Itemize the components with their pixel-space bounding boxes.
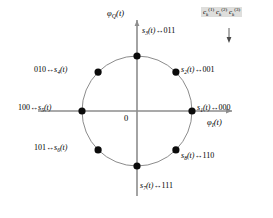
point-label-s7: s7(t)↔111 — [140, 182, 173, 190]
legend-c3-sup: (3) — [234, 7, 240, 12]
legend-c1-sup: (1) — [208, 7, 214, 12]
point-s3[interactable] — [133, 52, 140, 59]
axis-vertical — [135, 20, 140, 196]
s6-arrow-icon: ↔ — [46, 143, 54, 152]
point-s8[interactable] — [172, 146, 179, 153]
phi-i-symbol: φ — [207, 117, 212, 127]
s8-bits: 110 — [202, 151, 214, 160]
constellation-figure: φQ(t) φI(t) 0 ck(1) ck(2) ck(3) s1(t)↔00… — [0, 0, 273, 218]
legend-pointer-arrow-icon — [227, 28, 232, 43]
legend-c2-sup: (2) — [221, 7, 227, 12]
point-s7[interactable] — [133, 162, 140, 169]
s5-arrow-icon: ↔ — [30, 103, 38, 112]
s4-tail: (t) — [60, 65, 68, 74]
s3-bits: 011 — [163, 26, 175, 35]
origin-label: 0 — [124, 113, 128, 123]
s7-bits: 111 — [161, 181, 172, 190]
legend-c1-sub: k — [206, 12, 208, 17]
bit-order-legend: ck(1) ck(2) ck(3) — [201, 7, 242, 17]
s1-bits: 000 — [218, 103, 230, 112]
point-label-s4: 010↔s4(t) — [34, 66, 67, 74]
s5-sub: 5 — [41, 107, 44, 113]
legend-c3-sub: k — [232, 12, 234, 17]
point-s5[interactable] — [78, 107, 85, 114]
phi-q-symbol: φ — [107, 8, 112, 18]
point-s1[interactable] — [188, 107, 195, 114]
s7-sub: 7 — [143, 185, 146, 191]
point-label-s2: s2(t)↔001 — [181, 66, 214, 74]
point-s2[interactable] — [172, 69, 179, 76]
phi-q-tail: (t) — [116, 8, 124, 18]
point-label-s1: s1(t)↔000 — [197, 104, 230, 112]
point-label-s8: s8(t)↔110 — [181, 152, 214, 160]
s2-sub: 2 — [184, 69, 187, 75]
s4-bits: 010 — [34, 65, 46, 74]
s6-tail: (t) — [60, 143, 68, 152]
legend-c2-sub: k — [219, 12, 221, 17]
point-label-s5: 100↔s5(t) — [18, 104, 51, 112]
axis-label-phi-i: φI(t) — [207, 118, 222, 127]
phi-i-tail: (t) — [214, 117, 222, 127]
s8-sub: 8 — [184, 155, 187, 161]
s5-bits: 100 — [18, 103, 30, 112]
point-label-s6: 101↔s6(t) — [34, 144, 67, 152]
s4-sub: 4 — [57, 69, 60, 75]
s6-bits: 101 — [34, 143, 46, 152]
point-s4[interactable] — [95, 69, 102, 76]
s1-sub: 1 — [200, 107, 203, 113]
s5-tail: (t) — [44, 103, 52, 112]
s6-sub: 6 — [57, 147, 60, 153]
point-s6[interactable] — [95, 146, 102, 153]
s3-sub: 3 — [145, 30, 148, 36]
phi-q-subscript: Q — [112, 13, 116, 19]
axis-label-phi-q: φQ(t) — [107, 9, 124, 18]
point-label-s3: s3(t)↔011 — [142, 27, 175, 35]
phi-i-subscript: I — [212, 122, 214, 128]
s2-bits: 001 — [202, 65, 214, 74]
s4-arrow-icon: ↔ — [46, 65, 54, 74]
